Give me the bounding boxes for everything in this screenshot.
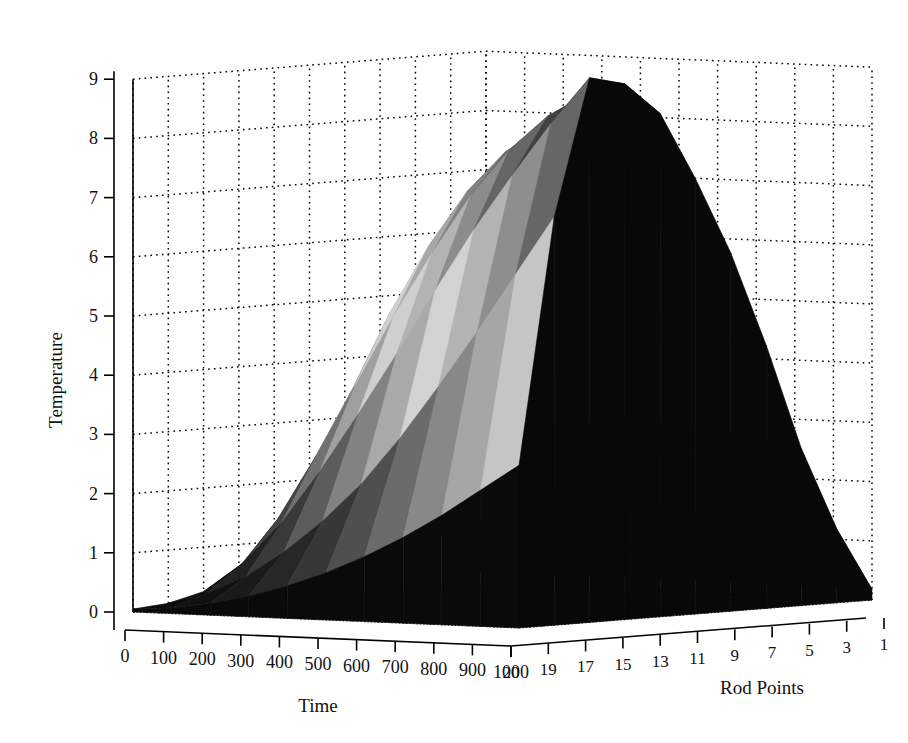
x-tick-label: 600 — [343, 656, 370, 676]
y-tick-label: 5 — [805, 641, 814, 660]
surface-mesh — [133, 78, 872, 628]
x-tick-label: 200 — [189, 649, 216, 669]
y-axis-title: Rod Points — [720, 677, 804, 698]
y-tick-label: 17 — [577, 657, 595, 676]
x-tick-label: 300 — [227, 651, 254, 671]
z-tick-label: 6 — [89, 247, 98, 267]
surface-plot-svg: 9876543210 01002003004005006007008009001… — [0, 0, 908, 743]
y-tick-label: 19 — [540, 660, 557, 679]
y-tick-label: 15 — [614, 655, 631, 674]
x-tick-label: 400 — [266, 652, 293, 672]
z-tick-label: 7 — [89, 188, 98, 208]
x-tick-label: 100 — [150, 648, 177, 668]
y-tick-label: 7 — [768, 643, 777, 662]
z-tick-label: 5 — [89, 306, 98, 326]
z-tick-labels: 9876543210 — [89, 69, 98, 622]
figure-canvas: 9876543210 01002003004005006007008009001… — [0, 0, 908, 743]
y-tick-label: 11 — [689, 649, 705, 668]
x-tick-label: 0 — [121, 646, 130, 666]
z-tick-label: 8 — [89, 128, 98, 148]
x-tick-label: 700 — [382, 657, 409, 677]
z-tick-label: 4 — [89, 365, 98, 385]
x-tick-labels: 01002003004005006007008009001000 — [121, 646, 530, 682]
y-tick-label: 20 — [503, 663, 520, 682]
z-tick-label: 0 — [89, 602, 98, 622]
y-tick-label: 1 — [880, 635, 889, 654]
z-tick-label: 3 — [89, 424, 98, 444]
z-axis-title: Temperature — [45, 332, 66, 428]
z-tick-label: 2 — [89, 484, 98, 504]
x-tick-label: 900 — [459, 660, 486, 680]
z-tick-label: 9 — [89, 69, 98, 89]
x-tick-label: 800 — [420, 659, 447, 679]
y-tick-label: 3 — [842, 638, 851, 657]
y-tick-label: 9 — [731, 646, 740, 665]
x-tick-label: 500 — [305, 654, 332, 674]
x-axis-title: Time — [298, 695, 337, 716]
z-tick-label: 1 — [89, 543, 98, 563]
y-tick-label: 13 — [652, 652, 669, 671]
